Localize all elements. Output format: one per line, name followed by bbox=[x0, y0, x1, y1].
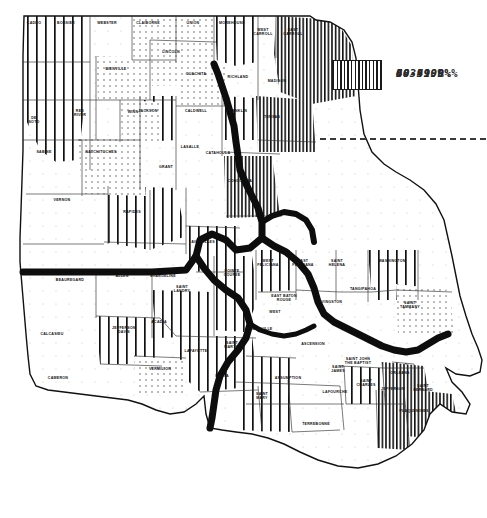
parish-label: OUACHITA bbox=[186, 72, 207, 76]
parish-label: ASSUMPTION bbox=[275, 376, 302, 380]
parish-label: WEST bbox=[269, 310, 281, 314]
parish-label: SAINTHELENA bbox=[329, 259, 345, 267]
parish-label: FRANKLIN bbox=[227, 109, 248, 113]
parish-label: LAFAYETTE bbox=[185, 349, 208, 353]
parish-label: ALLEN bbox=[115, 274, 128, 278]
parish-label: CLAIBORNE bbox=[136, 21, 160, 25]
map-legend: 0-39.9% 40-49.9% 50-59.9% 60- 100 % bbox=[322, 60, 484, 232]
legend-swatch-3 bbox=[332, 60, 382, 90]
parish-label: POINTECOUPEE bbox=[224, 269, 241, 277]
parish-label: WINN bbox=[128, 110, 139, 114]
parish-label: TENSAS bbox=[264, 115, 280, 119]
parish-label: RICHLAND bbox=[228, 75, 249, 79]
parish-label: AVOYELLES bbox=[191, 240, 215, 244]
parish-label: CATAHOULA bbox=[206, 151, 231, 155]
parish-label: CALDWELL bbox=[185, 109, 208, 113]
parish-label: BOSSIER bbox=[57, 21, 75, 25]
parish-label: RAPIDES bbox=[123, 210, 141, 214]
parish-label: SAINT JOHNTHE BAPTIST bbox=[345, 357, 372, 365]
parish-label: JACKSON bbox=[138, 109, 157, 113]
parish-label: MOREHOUSE bbox=[219, 21, 245, 25]
parish-label: LASALLE bbox=[181, 145, 200, 149]
parish-label: ACADIA bbox=[151, 320, 167, 324]
parish-label: PLAQUEMINES bbox=[399, 409, 428, 413]
parish-label: CAMERON bbox=[48, 376, 68, 380]
parish-label: LINCOLN bbox=[162, 50, 180, 54]
parish-label: SAINTJAMES bbox=[331, 365, 345, 373]
parish-label: BIENVILLE bbox=[105, 67, 126, 71]
parish-label: TANGIPAHOA bbox=[350, 287, 376, 291]
parish-label: VERMILION bbox=[149, 367, 171, 371]
parish-label: VERNON bbox=[54, 198, 71, 202]
parish-label: WEBSTER bbox=[97, 21, 117, 25]
parish-label: UNION bbox=[187, 21, 200, 25]
parish-label: WASHINGTON bbox=[378, 259, 405, 263]
parish-label: CONCORDIA bbox=[228, 179, 253, 183]
parish-label: BEAUREGARD bbox=[56, 278, 84, 282]
parish-label: CALCASIEU bbox=[40, 332, 63, 336]
parish-label: NATCHITOCHES bbox=[85, 150, 117, 154]
parish-label: EVANGELINE bbox=[150, 274, 176, 278]
parish-label: CADDO bbox=[27, 21, 41, 25]
parish-label: GRANT bbox=[159, 165, 174, 169]
legend-row-3: 60- 100 % bbox=[322, 60, 484, 94]
parish-label: LAFOURCHE bbox=[323, 390, 348, 394]
parish-label: TERREBONNE bbox=[302, 422, 330, 426]
parish-label: SABINE bbox=[36, 150, 51, 154]
parish-label: ORLEANS bbox=[390, 371, 410, 375]
parish-label: ASCENSION bbox=[301, 342, 325, 346]
parish-label: JEFFERSON bbox=[381, 387, 405, 391]
parish-label: IBERVILLE bbox=[252, 327, 273, 331]
parish-label: LIVINGSTON bbox=[318, 300, 343, 304]
parish-label: MADISON bbox=[268, 79, 287, 83]
parish-label: SAINTMARY bbox=[256, 392, 269, 400]
legend-label-3: 60- 100 % bbox=[396, 67, 458, 79]
parish-label: SAINTMARTIN bbox=[224, 341, 240, 349]
parish-label: IBERIA bbox=[215, 374, 229, 378]
legend-divider bbox=[320, 138, 486, 140]
